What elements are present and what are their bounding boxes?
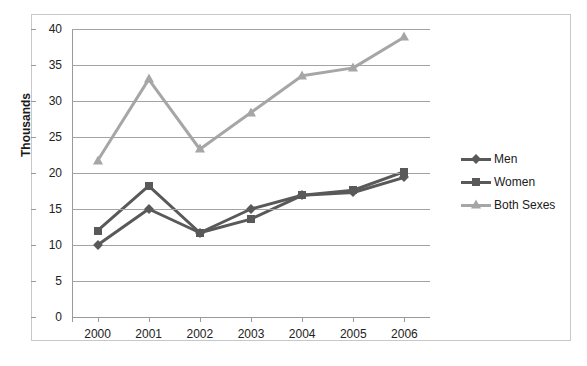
y-tick-mark (31, 281, 36, 282)
y-tick-label: 5 (36, 275, 62, 287)
y-tick-label: 35 (36, 59, 62, 71)
data-point-marker (93, 155, 103, 164)
y-tick-mark (31, 101, 36, 102)
gridline (72, 245, 430, 246)
data-point-marker (246, 107, 256, 116)
x-tick-label: 2006 (374, 327, 434, 341)
y-tick-mark (31, 245, 36, 246)
legend-label: Both Sexes (494, 198, 555, 212)
legend-label: Women (494, 175, 535, 189)
y-tick-mark (31, 209, 36, 210)
gridline (72, 137, 430, 138)
y-tick-mark (31, 65, 36, 66)
data-point-marker (298, 191, 306, 199)
x-tick-mark (353, 317, 354, 322)
y-tick-label: 0 (36, 311, 62, 323)
legend-swatch-square-icon (461, 175, 491, 189)
y-tick-mark (31, 317, 36, 318)
data-point-marker (349, 186, 357, 194)
gridline (72, 65, 430, 66)
series-line-women (98, 172, 405, 233)
x-tick-mark (200, 317, 201, 322)
legend-swatch-diamond-icon (461, 152, 491, 166)
y-tick-mark (31, 137, 36, 138)
data-point-marker (144, 74, 154, 83)
data-point-marker (196, 229, 204, 237)
y-axis-tick-labels: 0510152025303540 (36, 0, 66, 340)
legend-swatch-triangle-icon (461, 198, 491, 212)
gridline (72, 173, 430, 174)
gridline (72, 281, 430, 282)
x-tick-mark (404, 317, 405, 322)
chart-legend: MenWomenBoth Sexes (461, 147, 571, 216)
y-tick-mark (31, 29, 36, 30)
gridline (72, 29, 430, 30)
legend-item-men[interactable]: Men (461, 147, 571, 170)
data-point-marker (94, 227, 102, 235)
series-line-both-sexes (98, 37, 405, 161)
x-axis-origin-tick (72, 317, 73, 322)
data-point-marker (348, 62, 358, 71)
gridline (72, 101, 430, 102)
y-tick-label: 30 (36, 95, 62, 107)
y-tick-label: 25 (36, 131, 62, 143)
data-point-marker (247, 215, 255, 223)
y-tick-label: 40 (36, 23, 62, 35)
y-tick-label: 15 (36, 203, 62, 215)
legend-label: Men (494, 152, 517, 166)
x-tick-mark (149, 317, 150, 322)
plot-area (72, 29, 430, 317)
data-point-marker (399, 32, 409, 41)
data-point-marker (400, 168, 408, 176)
y-tick-label: 20 (36, 167, 62, 179)
legend-item-women[interactable]: Women (461, 170, 571, 193)
data-point-marker (195, 144, 205, 153)
legend-item-both-sexes[interactable]: Both Sexes (461, 193, 571, 216)
x-tick-mark (98, 317, 99, 322)
x-tick-mark (251, 317, 252, 322)
data-point-marker (145, 182, 153, 190)
data-point-marker (297, 70, 307, 79)
x-tick-mark (302, 317, 303, 322)
y-tick-label: 10 (36, 239, 62, 251)
y-tick-mark (31, 173, 36, 174)
